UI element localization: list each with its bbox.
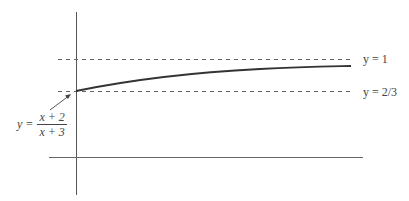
equation-numerator: x + 2	[37, 111, 66, 125]
function-graph-figure: y = 1 y = 2/3 y = x + 2 x + 3	[0, 0, 409, 201]
equation-fraction: x + 2 x + 3	[37, 111, 66, 138]
function-curve	[76, 66, 351, 91]
function-equation-label: y = x + 2 x + 3	[17, 111, 67, 138]
asymptote-label-upper: y = 1	[363, 53, 388, 65]
asymptote-label-lower: y = 2/3	[363, 86, 397, 98]
equation-denominator: x + 3	[37, 125, 66, 138]
graph-canvas	[0, 0, 409, 201]
equation-lhs: y =	[17, 117, 33, 132]
